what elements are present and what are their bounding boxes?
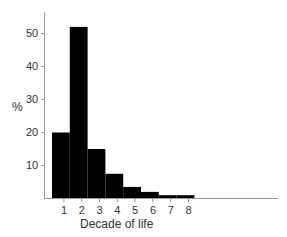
x-tick-label: 7 (168, 205, 174, 216)
bar-decade-5 (123, 187, 141, 199)
y-tick-label: 40 (26, 61, 38, 72)
bar-decade-3 (88, 149, 106, 199)
x-tick-label: 8 (186, 205, 192, 216)
x-ticks (64, 199, 189, 203)
x-tick-label: 4 (114, 205, 120, 216)
x-tick-label: 2 (79, 205, 85, 216)
bar-decade-2 (70, 27, 88, 199)
y-tick-label: 50 (26, 28, 38, 39)
histogram-chart: 1020304050 12345678 % Decade of life (0, 0, 287, 237)
x-tick-label: 1 (61, 205, 67, 216)
bars-group (52, 27, 194, 199)
chart-canvas (0, 0, 287, 237)
y-tick-label: 20 (26, 127, 38, 138)
y-ticks (41, 34, 45, 166)
bar-decade-4 (105, 174, 123, 199)
bar-decade-1 (52, 133, 70, 199)
x-tick-label: 6 (150, 205, 156, 216)
x-axis-label: Decade of life (80, 218, 153, 230)
y-tick-label: 30 (26, 94, 38, 105)
y-tick-label: 10 (26, 160, 38, 171)
bar-decade-6 (141, 192, 159, 199)
y-axis-label: % (12, 101, 23, 113)
x-tick-label: 3 (97, 205, 103, 216)
x-tick-label: 5 (132, 205, 138, 216)
